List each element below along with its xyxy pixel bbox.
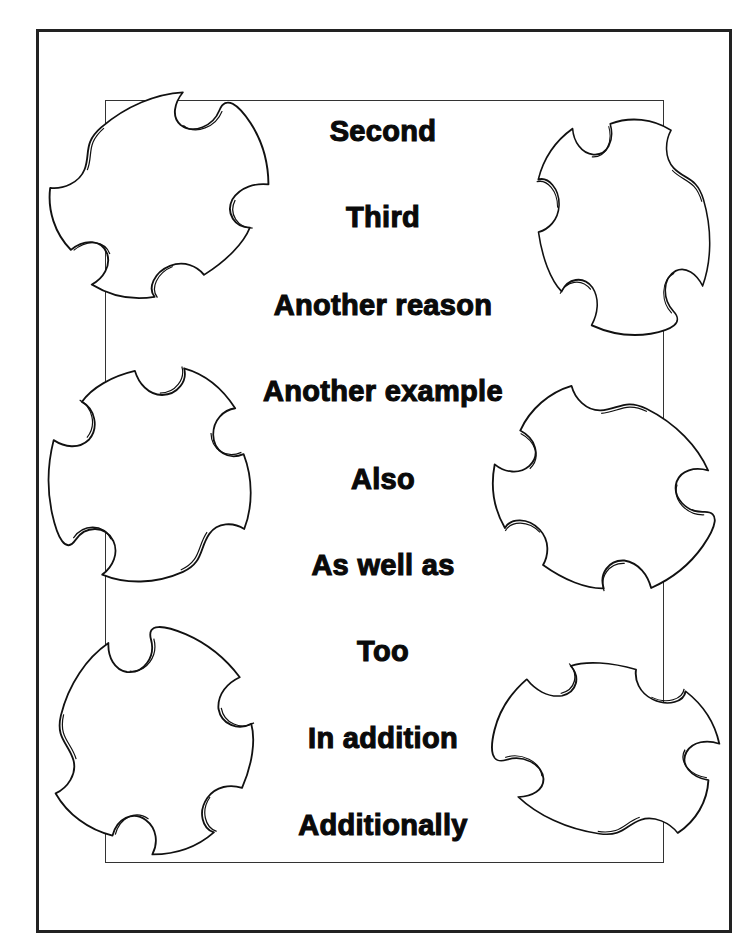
word-as-well-as: As well as: [0, 548, 742, 582]
word-also: Also: [0, 462, 742, 496]
word-another-example: Another example: [0, 374, 742, 408]
word-another-reason: Another reason: [0, 288, 742, 322]
word-second: Second: [0, 114, 742, 148]
word-too: Too: [0, 634, 742, 668]
word-third: Third: [0, 200, 742, 234]
transition-word-list: Second Third Another reason Another exam…: [0, 0, 742, 943]
word-in-addition: In addition: [0, 721, 742, 755]
word-additionally: Additionally: [0, 808, 742, 842]
